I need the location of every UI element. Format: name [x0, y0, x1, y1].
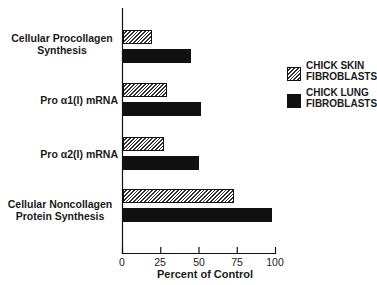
lung-bar: [123, 208, 273, 222]
x-tick-label: 0: [119, 256, 125, 268]
legend-label: CHICK SKIN FIBROBLASTS: [306, 61, 377, 82]
x-tick-label: 50: [193, 256, 205, 268]
lung-bar: [123, 102, 201, 116]
x-tick-label: 75: [231, 256, 243, 268]
legend-label-line: CHICK SKIN: [306, 61, 377, 72]
legend-item-lung: CHICK LUNG FIBROBLASTS: [287, 88, 377, 109]
bar-chart: Cellular Procollagen Synthesis Pro α1(I)…: [0, 0, 377, 285]
skin-bar: [123, 83, 167, 97]
lung-bar: [123, 156, 200, 170]
x-tick-label: 100: [266, 256, 284, 268]
legend-item-skin: CHICK SKIN FIBROBLASTS: [287, 61, 377, 82]
lung-bar: [123, 49, 192, 63]
legend-label-line: CHICK LUNG: [306, 88, 377, 99]
solid-swatch-icon: [287, 94, 301, 108]
skin-bar: [123, 137, 164, 151]
hatched-swatch-icon: [287, 67, 301, 81]
skin-bar: [123, 189, 235, 203]
legend-label-line: FIBROBLASTS: [306, 72, 377, 83]
legend-label-line: FIBROBLASTS: [306, 99, 377, 110]
chart-axes: [0, 0, 377, 285]
legend-label: CHICK LUNG FIBROBLASTS: [306, 88, 377, 109]
x-tick-label: 25: [154, 256, 166, 268]
skin-bar: [123, 30, 152, 44]
x-axis-title: Percent of Control: [157, 268, 253, 280]
